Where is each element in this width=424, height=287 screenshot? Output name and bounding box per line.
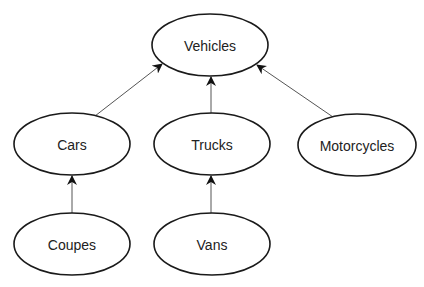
- nodes-group: VehiclesCarsTrucksMotorcyclesCoupesVans: [14, 14, 416, 275]
- edge-arrow-motorcycles-to-vehicles: [257, 65, 333, 117]
- node-cars: Cars: [14, 113, 130, 175]
- node-coupes: Coupes: [14, 213, 130, 275]
- node-motorcycles: Motorcycles: [298, 114, 416, 176]
- node-label-cars: Cars: [57, 137, 87, 153]
- node-label-trucks: Trucks: [191, 137, 232, 153]
- vehicle-hierarchy-diagram: VehiclesCarsTrucksMotorcyclesCoupesVans: [0, 0, 424, 287]
- node-vehicles: Vehicles: [152, 14, 268, 76]
- node-vans: Vans: [154, 213, 270, 275]
- node-label-vans: Vans: [197, 237, 228, 253]
- edge-arrow-cars-to-vehicles: [95, 64, 162, 116]
- node-label-vehicles: Vehicles: [184, 38, 236, 54]
- node-label-motorcycles: Motorcycles: [320, 138, 395, 154]
- node-label-coupes: Coupes: [48, 237, 96, 253]
- node-trucks: Trucks: [154, 113, 270, 175]
